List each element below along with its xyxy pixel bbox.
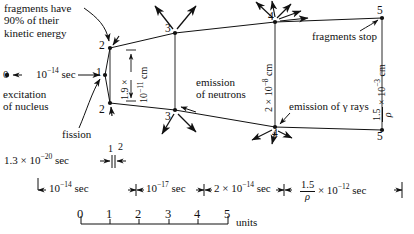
- gamma-arrows-node4-top: [256, 1, 308, 21]
- interval-label-1-2: 10−14 sec: [49, 182, 89, 194]
- node-label-3-bottom: 3: [165, 110, 171, 123]
- kinetic-line-1: fragments have: [4, 2, 72, 14]
- d3-times: ×: [376, 99, 387, 105]
- start-unit: sec: [61, 68, 75, 80]
- i3-unit: sec: [257, 182, 271, 194]
- d1-coeff: 1.9: [119, 88, 130, 101]
- annotation-neutrons: emission of neutrons: [196, 76, 246, 101]
- row1-tick-label-1: 1: [108, 143, 113, 154]
- row1-tick-label-2: 2: [118, 141, 123, 152]
- excitation-line-2: of nucleus: [3, 100, 49, 112]
- r1-times: ×: [21, 154, 27, 166]
- interval-label-4-5: 1.5 ρ × 10−12 sec: [300, 180, 366, 202]
- d1-mant: 10: [138, 93, 149, 103]
- interval-label-3-4: 2 × 10−14 sec: [214, 182, 271, 194]
- d1-exp: −11: [136, 82, 145, 93]
- node-label-2-bottom: 2: [99, 103, 105, 116]
- d3-unit: cm: [376, 64, 387, 76]
- node-label-5-bottom: 5: [377, 130, 383, 143]
- i4-fraction: 1.5 ρ: [300, 180, 315, 202]
- d2-exp: −8: [261, 78, 270, 86]
- units-scale-ruler: [81, 216, 228, 224]
- annotation-fission: fission: [62, 128, 91, 140]
- kinetic-line-2: 90% of their: [4, 14, 72, 26]
- i4-den: ρ: [300, 192, 315, 203]
- i3-mant: 10: [231, 182, 242, 194]
- r1-coeff: 1.3: [4, 154, 18, 166]
- i1-mant: 10: [49, 182, 60, 194]
- d2-coeff: 2: [263, 107, 274, 112]
- r1-mant: 10: [29, 154, 40, 166]
- d3-exp: −3: [373, 79, 382, 87]
- i4-mant: 10: [327, 184, 338, 196]
- i4-exp: −12: [338, 182, 350, 191]
- node-label-4-top: 4: [268, 10, 274, 23]
- distance-label-1-9e-11-mant: 10−11 cm: [138, 67, 149, 103]
- i2-mant: 10: [146, 182, 157, 194]
- i3-times: ×: [222, 182, 228, 194]
- i4-num: 1.5: [300, 180, 315, 191]
- neutrons-line-2: of neutrons: [196, 88, 246, 100]
- distance-label-1-9e-11: 1.9 ×: [119, 79, 130, 100]
- row1-ticks: [100, 155, 126, 168]
- neutron-arrows-node3-top: [155, 6, 196, 29]
- node-label-4-bottom: 4: [272, 127, 278, 140]
- i4-unit: sec: [352, 184, 366, 196]
- interval-label-2-3: 10−17 sec: [146, 182, 186, 194]
- i4-times: ×: [318, 184, 324, 196]
- i1-unit: sec: [74, 182, 88, 194]
- d2-times: ×: [263, 99, 274, 105]
- path-2-3-bottom: [110, 103, 175, 110]
- i2-exp: −17: [157, 180, 169, 189]
- scale-tick-1: 1: [106, 207, 112, 221]
- excitation-line-1: excitation: [3, 88, 49, 100]
- d3-den: ρ: [383, 108, 393, 123]
- annotation-gamma-rays: emission of γ rays: [289, 100, 369, 112]
- scale-tick-3: 3: [165, 207, 171, 221]
- d3-num: 1.5: [372, 108, 382, 123]
- distance-label-1-5-rho-e-3: 1.5 ρ × 10−3 cm: [372, 64, 393, 122]
- path-3-4-bottom: [175, 110, 275, 127]
- scale-units-label: units: [236, 216, 257, 228]
- leader-kinetic-energy: [84, 8, 109, 41]
- d3-mant: 10: [376, 87, 387, 97]
- leader-fission: [79, 79, 100, 128]
- r1-unit: sec: [55, 154, 69, 166]
- leader-gamma: [280, 113, 290, 124]
- r1-exp: −20: [40, 152, 52, 161]
- scale-tick-5: 5: [224, 207, 230, 221]
- neutrons-line-1: emission: [196, 76, 246, 88]
- path-1-2-top: [105, 48, 110, 75]
- annotation-fragments-stop: fragments stop: [312, 30, 377, 42]
- i1-exp: −14: [60, 180, 72, 189]
- kinetic-line-3: kinetic energy: [4, 27, 72, 39]
- annotation-excitation: excitation of nucleus: [3, 88, 49, 113]
- start-mantissa: 10: [36, 68, 47, 80]
- distance-label-2e-8: 2 × 10−8 cm: [263, 64, 274, 112]
- time-row1-label: 1.3 × 10−20 sec: [4, 154, 69, 166]
- d2-unit: cm: [263, 64, 274, 76]
- start-exponent: −14: [47, 66, 59, 75]
- origin-label: 0: [3, 68, 9, 80]
- path-3-4-top: [175, 22, 275, 33]
- node-label-1: 1: [96, 66, 102, 79]
- i3-coeff: 2: [214, 182, 220, 194]
- path-2-3-top: [110, 33, 175, 48]
- fission-timeline-diagram: fragments have 90% of their kinetic ener…: [0, 0, 414, 234]
- node-label-2-top: 2: [99, 39, 105, 52]
- node-label-5-top: 5: [377, 4, 383, 17]
- scale-tick-0: 0: [77, 207, 83, 221]
- node-label-3-top: 3: [165, 22, 171, 35]
- scale-tick-4: 4: [194, 207, 200, 221]
- scale-tick-2: 2: [135, 207, 141, 221]
- d2-mant: 10: [263, 86, 274, 96]
- annotation-kinetic-energy: fragments have 90% of their kinetic ener…: [4, 2, 72, 39]
- i2-unit: sec: [171, 182, 185, 194]
- i3-exp: −14: [242, 180, 254, 189]
- d1-unit: cm: [138, 67, 149, 79]
- d1-times: ×: [119, 79, 130, 85]
- start-time-label: 0 10−14 sec: [3, 68, 76, 80]
- path-4-5-bottom: [275, 127, 382, 130]
- d3-fraction: 1.5 ρ: [372, 108, 393, 123]
- path-1-2-bottom: [105, 75, 110, 103]
